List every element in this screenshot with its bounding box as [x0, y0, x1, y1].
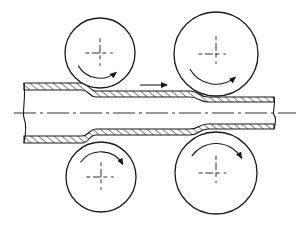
tube-rolling-diagram: Tube rolling with two pairs of rollers	[0, 0, 302, 226]
roller-bottom-left	[66, 142, 136, 212]
roller-bottom-right	[175, 132, 257, 214]
roller-circle	[65, 18, 135, 88]
roller-top-left	[65, 18, 135, 88]
diagram-canvas	[0, 0, 302, 226]
roller-top-right	[174, 12, 258, 96]
roller-circle	[66, 142, 136, 212]
